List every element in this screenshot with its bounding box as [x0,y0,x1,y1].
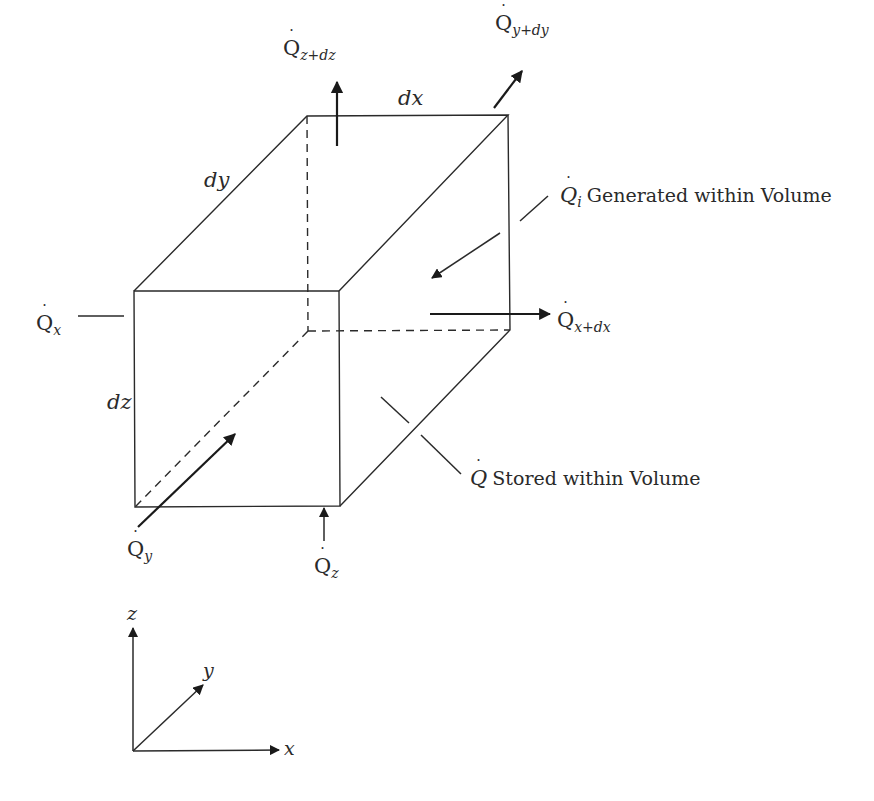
qydy-arrow-icon [494,71,522,108]
dx-label: dx [398,88,423,109]
cube-hidden-depth-edge [135,331,308,507]
dot-accent: ˙ [565,176,573,192]
qi-label: ˙Qi Generated within Volume [560,185,832,209]
qy-label: ˙Qy [127,539,152,563]
subscript: z [331,565,338,581]
subscript: x+dx [574,319,610,335]
qx-label: ˙Qx [36,313,61,337]
z-axis-label: z [127,604,137,623]
subscript: i [577,194,581,210]
coordinate-axes [133,628,279,751]
qs-leader-line-upper [381,397,409,423]
cube-front-face [134,291,340,507]
qzdz-label: ˙Qz+dz [283,38,336,62]
qs-description: Stored within Volume [492,467,700,489]
dot-accent: ˙ [41,304,49,320]
dy-label: dy [204,170,229,191]
dz-label: dz [107,392,132,413]
qi-description: Generated within Volume [587,184,832,206]
qy-arrow-icon [138,434,235,527]
cube [134,115,510,507]
dot-accent: ˙ [288,29,296,45]
qi-leader-line [520,196,548,221]
subscript: x [53,322,61,338]
dot-accent: ˙ [562,301,570,317]
subscript: z+dz [300,47,335,63]
y-axis-label: y [203,661,214,680]
subscript: y+dy [512,22,549,38]
qxdx-label: ˙Qx+dx [557,310,611,334]
cube-hidden-vertical-edge [307,116,308,331]
qi-arrow-icon [432,233,500,278]
x-axis-arrow-icon [133,750,279,751]
x-axis-label: x [284,739,295,758]
qs-label: ˙Q Stored within Volume [470,468,701,489]
dot-accent: ˙ [132,530,140,546]
cube-hidden-width-edge [308,330,510,331]
dot-accent: ˙ [319,547,327,563]
subscript: y [144,548,152,564]
qz-label: ˙Qz [314,556,339,580]
dot-accent: ˙ [500,4,508,20]
dot-accent: ˙ [475,459,483,475]
qs-leader-line-lower [421,435,461,474]
qydy-label: ˙Qy+dy [495,13,549,37]
cube-right-face [340,115,510,506]
y-axis-arrow-icon [133,685,203,751]
